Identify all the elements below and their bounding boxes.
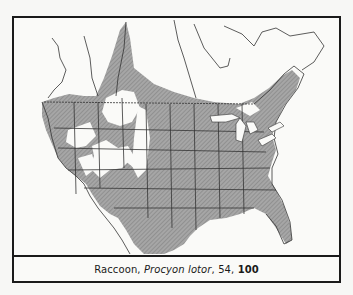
scientific-name: Procyon lotor — [144, 264, 212, 275]
common-name: Raccoon — [94, 264, 137, 275]
map-number: 100 — [238, 264, 259, 275]
map-frame: Raccoon, Procyon lotor, 54, 100 — [12, 16, 341, 283]
range-map — [14, 18, 339, 255]
page-reference: 54 — [218, 264, 231, 275]
map-caption: Raccoon, Procyon lotor, 54, 100 — [14, 257, 339, 281]
raccoon-range — [42, 22, 300, 254]
